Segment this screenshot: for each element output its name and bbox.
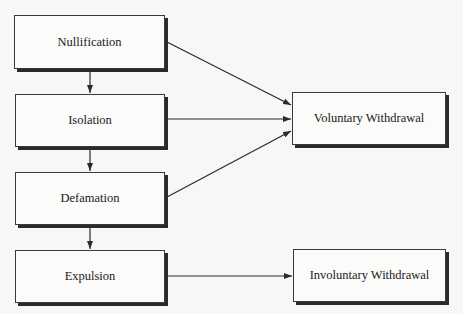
node-voluntary-withdrawal: Voluntary Withdrawal bbox=[292, 92, 446, 145]
edge-defamation-voluntary bbox=[167, 131, 291, 197]
edge-nullification-voluntary bbox=[167, 42, 291, 105]
node-isolation: Isolation bbox=[15, 94, 165, 147]
node-label: Isolation bbox=[68, 113, 112, 128]
node-label: Voluntary Withdrawal bbox=[314, 111, 424, 126]
node-expulsion: Expulsion bbox=[15, 250, 165, 303]
node-defamation: Defamation bbox=[15, 172, 165, 225]
node-label: Nullification bbox=[58, 35, 122, 50]
node-nullification: Nullification bbox=[14, 15, 165, 69]
node-label: Involuntary Withdrawal bbox=[310, 268, 430, 283]
node-label: Expulsion bbox=[65, 269, 116, 284]
node-label: Defamation bbox=[60, 191, 119, 206]
node-involuntary-withdrawal: Involuntary Withdrawal bbox=[293, 249, 446, 302]
